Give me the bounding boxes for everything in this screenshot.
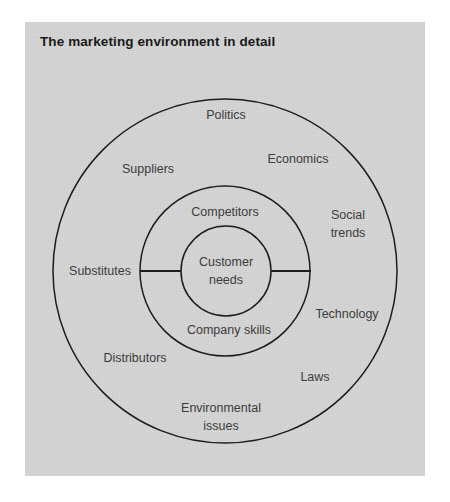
label-social-trends-line2: trends xyxy=(331,226,366,240)
label-customer-needs-line1: Customer xyxy=(199,255,253,269)
figure-panel: The marketing environment in detail Cust… xyxy=(25,22,425,476)
label-substitutes: Substitutes xyxy=(69,264,131,278)
label-environmental-issues-line1: Environmental xyxy=(181,401,261,415)
label-social-trends-line1: Social xyxy=(331,208,365,222)
label-laws: Laws xyxy=(300,370,329,384)
label-competitors: Competitors xyxy=(191,205,258,219)
label-technology: Technology xyxy=(315,307,379,321)
concentric-environment-diagram: Customer needs Competitors Company skill… xyxy=(25,22,425,476)
label-environmental-issues-line2: issues xyxy=(203,419,238,433)
label-economics: Economics xyxy=(267,152,328,166)
inner-circle-customer-core xyxy=(181,226,271,316)
label-politics: Politics xyxy=(206,108,246,122)
label-suppliers: Suppliers xyxy=(122,162,174,176)
label-customer-needs-line2: needs xyxy=(209,273,243,287)
label-company-skills: Company skills xyxy=(187,323,271,337)
label-distributors: Distributors xyxy=(103,351,166,365)
